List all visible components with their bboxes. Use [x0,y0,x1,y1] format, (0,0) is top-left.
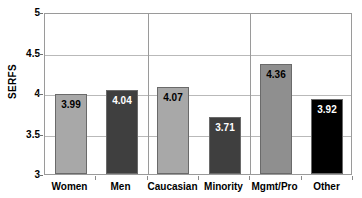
y-axis-tick-mark [38,13,43,14]
bar-value-label: 3.71 [210,123,240,133]
y-axis-tick-label: 3.5 [18,130,40,140]
x-axis-category-label: Men [95,182,146,192]
x-axis-category-label: Mgmt/Pro [249,182,300,192]
x-axis-category-label: Caucasian [147,182,198,192]
x-axis-tick-mark [301,176,302,180]
x-axis-tick-mark [147,176,148,180]
x-axis-tick-mark [249,176,250,180]
x-axis-tick-mark [95,176,96,180]
bar-value-label: 4.04 [107,96,137,106]
group-separator [148,14,149,174]
y-axis-tick-mark [38,94,43,95]
gridline [45,95,351,96]
bar-value-label: 3.92 [312,105,342,115]
x-axis-tick-mark [198,176,199,180]
bar-value-label: 3.99 [56,100,86,110]
bar-value-label: 4.36 [261,70,291,80]
y-axis-tick-mark [38,135,43,136]
bar: 4.36 [260,64,292,174]
bar-chart: SERFS 33.544.55 3.994.044.073.714.363.92… [0,0,362,198]
plot-area: 3.994.044.073.714.363.92 [44,13,352,175]
group-separator [250,14,251,174]
bar-value-label: 4.07 [158,93,188,103]
y-axis-tick-label: 4 [18,89,40,99]
y-axis-tick-mark [38,54,43,55]
bar: 3.92 [311,99,343,174]
x-axis-category-label: Other [301,182,352,192]
bar: 3.99 [55,94,87,174]
x-axis-category-label: Minority [198,182,249,192]
y-axis-tick-labels: 33.544.55 [14,0,40,198]
x-axis-tick-mark [352,176,353,180]
gridline [45,55,351,56]
bar: 4.04 [106,90,138,174]
y-axis-tick-label: 5 [18,8,40,18]
bar: 3.71 [209,117,241,175]
y-axis-tick-mark [38,175,43,176]
y-axis-tick-label: 3 [18,170,40,180]
x-axis-category-label: Women [44,182,95,192]
gridline [45,136,351,137]
y-axis-tick-label: 4.5 [18,49,40,59]
bar: 4.07 [157,87,189,174]
